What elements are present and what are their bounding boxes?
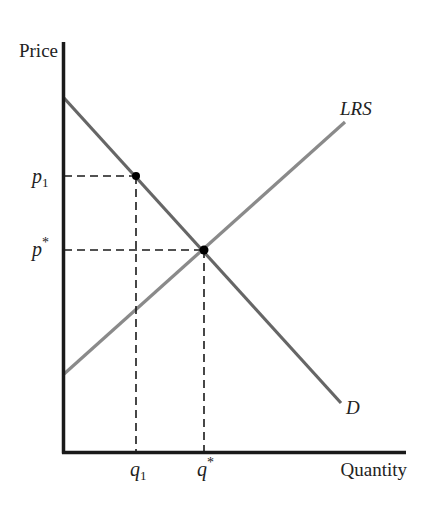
y-axis-label: Price <box>19 40 58 61</box>
q1-label: q1 <box>130 458 147 483</box>
pstar-label: p* <box>30 235 49 261</box>
p1-label: p1 <box>30 165 49 190</box>
initial-point <box>132 172 140 180</box>
qstar-label: q* <box>197 455 214 481</box>
x-axis-label: Quantity <box>341 459 408 480</box>
lrs-label: LRS <box>339 98 372 119</box>
equilibrium-point <box>200 246 209 255</box>
supply-demand-diagram: Price Quantity LRS D p1 p* q1 q* <box>0 0 432 511</box>
demand-label: D <box>345 397 360 418</box>
